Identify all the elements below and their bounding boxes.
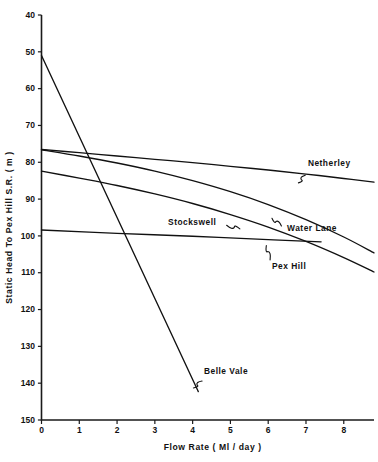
y-tick-label: 110: [21, 267, 35, 277]
y-tick-label: 140: [21, 378, 35, 388]
series-label-belle-vale: Belle Vale: [204, 366, 248, 376]
y-tick-label: 130: [21, 341, 35, 351]
y-tick-label: 50: [26, 47, 36, 57]
line-chart: 405060708090100110120130140150012345678 …: [0, 0, 378, 462]
series-line-stockswell: [42, 230, 322, 242]
leader-squiggle-pex-hill: [266, 245, 270, 259]
x-tick-label: 7: [304, 425, 309, 435]
chart-axis-titles: Flow Rate ( Ml / day )Static Head To Pex…: [4, 151, 262, 452]
leader-squiggle-water-lane: [272, 218, 281, 226]
leader-squiggle-netherley: [298, 175, 305, 183]
y-tick-label: 100: [21, 231, 35, 241]
series-label-netherley: Netherley: [308, 158, 351, 168]
series-label-stockswell: Stockswell: [168, 217, 216, 227]
y-tick-label: 90: [26, 194, 36, 204]
series-label-water-lane: Water Lane: [287, 223, 337, 233]
y-tick-label: 60: [26, 83, 36, 93]
leader-squiggle-stockswell: [227, 225, 240, 229]
series-label-pex-hill: Pex Hill: [272, 261, 306, 271]
y-tick-label: 40: [26, 10, 36, 20]
chart-series-annotations: NetherleyWater LanePex HillStockswellBel…: [168, 158, 350, 388]
chart-figure: 405060708090100110120130140150012345678 …: [0, 0, 378, 462]
y-tick-label: 120: [21, 304, 35, 314]
x-axis-title: Flow Rate ( Ml / day ): [164, 442, 262, 452]
x-tick-label: 0: [39, 425, 44, 435]
x-tick-label: 6: [266, 425, 271, 435]
x-tick-label: 2: [115, 425, 120, 435]
y-tick-label: 70: [26, 120, 36, 130]
x-tick-label: 8: [341, 425, 346, 435]
x-tick-label: 1: [77, 425, 82, 435]
y-tick-label: 80: [26, 157, 36, 167]
x-tick-label: 5: [228, 425, 233, 435]
y-axis-title: Static Head To Pex Hill S.R. ( m ): [4, 151, 14, 304]
x-tick-label: 3: [152, 425, 157, 435]
y-tick-label: 150: [21, 415, 35, 425]
x-tick-label: 4: [190, 425, 195, 435]
